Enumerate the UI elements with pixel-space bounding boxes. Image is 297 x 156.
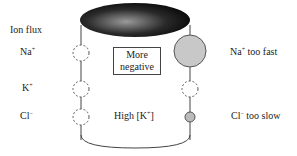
- ion-flux-label: Ion flux: [10, 24, 42, 35]
- k-channel-right: [182, 81, 198, 97]
- na-too-fast-label: Na+ too fast: [230, 46, 277, 57]
- cl-channel-left: [73, 109, 89, 125]
- cl-label: Cl−: [20, 110, 33, 121]
- na-channel-right-large: [174, 35, 206, 67]
- cell-diagram: [0, 0, 297, 156]
- k-label: K+: [22, 82, 33, 93]
- cylinder-top: [80, 3, 190, 37]
- bottom-curve: [81, 135, 190, 148]
- na-label: Na+: [20, 46, 35, 57]
- more-negative-box: More negative: [113, 47, 161, 75]
- na-channel-left: [73, 45, 89, 61]
- cl-channel-right-small: [185, 112, 195, 122]
- high-k-label: High [K+]: [114, 110, 154, 121]
- k-channel-left: [73, 81, 89, 97]
- cl-too-slow-label: Cl− too slow: [231, 110, 281, 121]
